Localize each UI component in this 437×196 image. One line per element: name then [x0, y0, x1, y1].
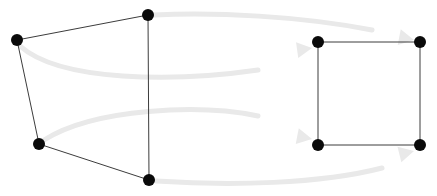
- graph-node[interactable]: [33, 138, 45, 150]
- graph-node[interactable]: [11, 34, 23, 46]
- graph-node[interactable]: [414, 139, 426, 151]
- mapping-L4-to-R4: [156, 168, 382, 183]
- mapping-L3-to-R3: [44, 110, 258, 140]
- graph-node[interactable]: [142, 9, 154, 21]
- mapping-L3-to-R3-arrowhead-icon: [296, 128, 312, 144]
- mapping-L2-to-R2: [154, 14, 372, 30]
- graph-mapping-figure: [0, 0, 437, 196]
- mapping-L4-to-R4-arrowhead-icon: [398, 147, 414, 163]
- graph-node[interactable]: [143, 174, 155, 186]
- graph-node[interactable]: [414, 36, 426, 48]
- graph-edge-layer: [17, 15, 420, 180]
- graph-edge: [148, 15, 149, 180]
- mapping-L1-to-R1-arrowhead-icon: [296, 42, 312, 58]
- diagram-canvas: [0, 0, 437, 196]
- mapping-L2-to-R2-arrowhead-icon: [398, 29, 414, 45]
- graph-node-layer: [11, 9, 426, 186]
- graph-node[interactable]: [312, 139, 324, 151]
- mapping-L1-to-R1: [20, 46, 258, 77]
- mapping-arrow-layer: [20, 14, 414, 183]
- graph-edge: [39, 144, 149, 180]
- graph-node[interactable]: [312, 36, 324, 48]
- graph-edge: [17, 15, 148, 40]
